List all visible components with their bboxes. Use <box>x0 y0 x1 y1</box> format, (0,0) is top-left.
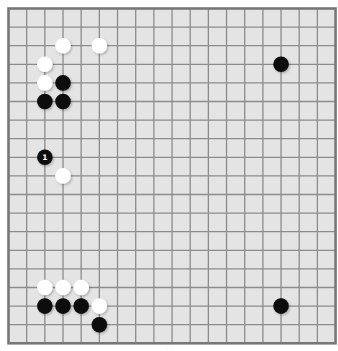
move-number-label: 1 <box>42 153 47 162</box>
black-stone: 1 <box>37 150 53 166</box>
black-stone <box>273 298 289 314</box>
white-stone <box>37 280 53 296</box>
white-stone <box>55 38 71 54</box>
white-stone <box>73 280 89 296</box>
white-stone <box>55 168 71 184</box>
black-stone <box>273 57 289 73</box>
black-stone <box>55 298 71 314</box>
black-stone <box>73 298 89 314</box>
black-stone <box>92 317 108 333</box>
black-stone <box>37 94 53 110</box>
white-stone <box>37 75 53 91</box>
white-stone <box>92 38 108 54</box>
go-board[interactable]: 1 <box>0 0 338 351</box>
black-stone <box>37 298 53 314</box>
white-stone <box>92 298 108 314</box>
board-caption: · · <box>0 344 338 351</box>
white-stone <box>37 57 53 73</box>
black-stone <box>55 94 71 110</box>
black-stone <box>55 75 71 91</box>
white-stone <box>55 280 71 296</box>
